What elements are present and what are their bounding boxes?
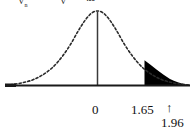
tick-label-165: 1.65	[131, 103, 154, 116]
normal-distribution-figure: Vn V 400 0 1.65 ↑ 1.96	[0, 0, 192, 131]
tick-label-zero: 0	[92, 103, 99, 116]
tick-label-196: 1.96	[161, 116, 184, 129]
baseline-left-cap	[5, 84, 16, 88]
up-arrow-icon: ↑	[166, 101, 173, 114]
